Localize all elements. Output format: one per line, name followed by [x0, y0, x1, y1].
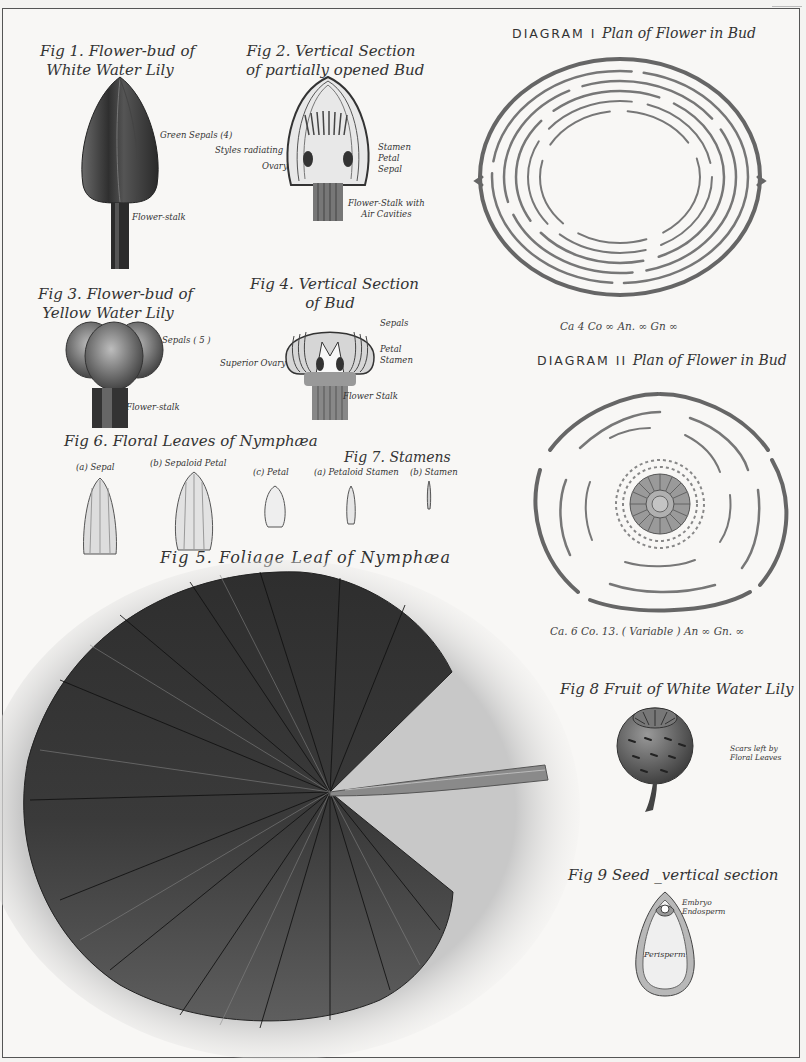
fig4-title-line2: of Bud: [250, 294, 410, 313]
fig9-title: Fig 9 Seed _vertical section: [568, 866, 779, 885]
fig6-title: Fig 6. Floral Leaves of Nymphæa: [64, 432, 318, 451]
fig1-label-sepals: Green Sepals (4): [160, 130, 232, 140]
fig4-title: Fig 4. Vertical Section of Bud: [250, 275, 410, 313]
fig3-title-line1: Fig 3. Flower-bud of: [38, 285, 178, 304]
fig3-label-sepals: Sepals ( 5 ): [162, 335, 211, 345]
fig3-label-stalk: Flower-stalk: [126, 402, 180, 412]
diagram1-floral-formula: Ca 4 Co ∞ An. ∞ Gn ∞: [560, 320, 678, 332]
fig6-sepaloid-petal-illustration: [172, 470, 216, 556]
fig4-title-line1: Fig 4. Vertical Section: [250, 275, 410, 294]
fig4-label-stalk: Flower Stalk: [343, 391, 398, 401]
fig6-sepal-illustration: [80, 476, 120, 558]
fig2-label-stalk: Flower-Stalk with Air Cavities: [348, 198, 425, 220]
fig9-label-perisperm: Perisperm: [644, 950, 686, 959]
fig6-petal-illustration: [262, 485, 288, 529]
fig7-title: Fig 7. Stamens: [344, 448, 451, 467]
fig2-label-stalk-line2: Air Cavities: [348, 209, 425, 220]
fig7-label-petaloid-stamen: (a) Petaloid Stamen: [314, 467, 399, 477]
fig6-label-sepaloid-petal: (b) Sepaloid Petal: [150, 458, 226, 468]
fig4-label-stamen: Stamen: [380, 355, 413, 365]
fig8-title: Fig 8 Fruit of White Water Lily: [560, 680, 794, 699]
page-mark: [772, 0, 802, 7]
fig7-label-stamen: (b) Stamen: [410, 467, 458, 477]
fig6-label-petal: (c) Petal: [253, 467, 289, 477]
fig7-stamen-illustration: [425, 480, 433, 510]
fig4-bud-section-illustration: [280, 312, 380, 422]
fig1-label-stalk: Flower-stalk: [132, 212, 186, 222]
diagram2-floral-formula: Ca. 6 Co. 13. ( Variable ) An ∞ Gn. ∞: [550, 625, 744, 637]
fig8-label-scars-line1: Scars left by: [730, 744, 781, 753]
diagram2-title: DIAGRAM II Plan of Flower in Bud: [537, 352, 787, 368]
diagram1-floral-plan: [472, 55, 782, 305]
fig2-label-stalk-line1: Flower-Stalk with: [348, 198, 425, 209]
fig1-title-line1: Fig 1. Flower-bud of: [40, 42, 180, 61]
fig2-label-stamen: Stamen: [378, 142, 411, 152]
fig8-fruit-illustration: [615, 700, 695, 820]
fig8-label-scars: Scars left by Floral Leaves: [730, 744, 781, 762]
fig9-label-embryo: Embryo: [682, 898, 712, 907]
fig4-label-sepals: Sepals: [380, 318, 408, 328]
fig1-flower-bud-illustration: [75, 75, 165, 275]
diagram2-subtitle: Plan of Flower in Bud: [633, 352, 787, 368]
fig5-foliage-leaf-illustration: [0, 560, 600, 1060]
fig2-label-ovary: Ovary: [262, 161, 288, 171]
fig4-label-petal: Petal: [380, 344, 402, 354]
diagram1-title: DIAGRAM I Plan of Flower in Bud: [512, 25, 756, 41]
diagram2-floral-plan: [510, 380, 806, 620]
fig2-label-petal: Petal: [378, 153, 400, 163]
fig6-label-sepal: (a) Sepal: [76, 462, 114, 472]
fig7-petaloid-stamen-illustration: [344, 485, 358, 525]
diagram1-subtitle: Plan of Flower in Bud: [602, 25, 756, 41]
fig2-title-line1: Fig 2. Vertical Section: [246, 42, 416, 61]
fig2-label-styles: Styles radiating: [215, 145, 283, 155]
fig9-label-endosperm: Endosperm: [682, 907, 725, 916]
fig2-label-sepal: Sepal: [378, 164, 402, 174]
fig8-label-scars-line2: Floral Leaves: [730, 753, 781, 762]
diagram1-caps: DIAGRAM I: [512, 26, 597, 41]
diagram2-caps: DIAGRAM II: [537, 353, 627, 368]
fig4-label-ovary: Superior Ovary: [220, 358, 286, 368]
